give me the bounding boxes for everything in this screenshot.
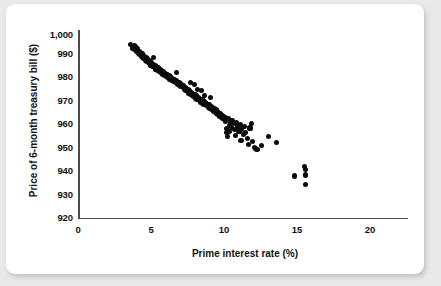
y-tick-label: 990 xyxy=(39,48,73,59)
data-point xyxy=(242,124,247,129)
data-point xyxy=(226,116,231,121)
data-point xyxy=(249,121,254,126)
data-point xyxy=(187,88,192,93)
data-point xyxy=(153,66,158,71)
x-tick-label: 0 xyxy=(65,224,91,235)
data-point xyxy=(143,57,148,62)
data-point xyxy=(199,97,204,102)
data-point xyxy=(144,55,149,60)
data-point xyxy=(220,113,225,118)
data-point xyxy=(215,109,220,114)
data-point xyxy=(183,85,188,90)
data-point xyxy=(204,103,209,108)
data-point xyxy=(179,82,184,87)
data-point xyxy=(208,95,213,100)
data-point xyxy=(164,72,169,77)
data-point xyxy=(229,125,234,130)
x-tick-label: 10 xyxy=(211,224,237,235)
data-point xyxy=(178,81,183,86)
data-point xyxy=(192,92,197,97)
data-point xyxy=(215,112,220,117)
data-point xyxy=(259,143,264,148)
data-point xyxy=(218,111,223,116)
data-point xyxy=(246,142,251,147)
data-point xyxy=(134,49,139,54)
y-axis-title: Price of 6-month treasury bill ($) xyxy=(28,26,39,216)
data-point xyxy=(177,83,182,88)
data-point xyxy=(197,98,202,103)
data-point xyxy=(222,117,227,122)
data-point xyxy=(167,73,172,78)
data-point xyxy=(137,49,142,54)
x-tick-label: 5 xyxy=(138,224,164,235)
data-point xyxy=(174,78,179,83)
data-point xyxy=(194,93,199,98)
data-point xyxy=(152,65,157,70)
data-point xyxy=(165,75,170,80)
data-point xyxy=(157,69,162,74)
data-point xyxy=(303,172,308,177)
data-point xyxy=(197,96,202,101)
data-point xyxy=(190,91,195,96)
data-point xyxy=(167,77,172,82)
data-point xyxy=(154,64,159,69)
data-point xyxy=(198,99,203,104)
data-point xyxy=(162,73,167,78)
scatter-plot-figure: 1,000 990 980 970 960 950 940 930 920 0 … xyxy=(0,0,441,286)
data-point xyxy=(176,80,181,85)
data-point xyxy=(170,76,175,81)
data-point xyxy=(210,105,215,110)
data-point xyxy=(172,77,177,82)
data-point xyxy=(132,43,137,48)
data-point xyxy=(153,63,158,68)
data-point xyxy=(238,122,243,127)
data-point xyxy=(228,120,233,125)
data-point xyxy=(302,164,307,169)
data-point xyxy=(201,102,206,107)
data-point xyxy=(292,173,297,178)
data-point xyxy=(206,104,211,109)
data-point xyxy=(250,139,255,144)
data-point xyxy=(159,68,164,73)
data-point xyxy=(186,91,191,96)
data-point xyxy=(141,53,146,58)
data-point xyxy=(233,133,238,138)
data-point xyxy=(191,94,196,99)
data-point xyxy=(146,58,151,63)
data-point xyxy=(185,87,190,92)
data-point xyxy=(209,107,214,112)
data-point xyxy=(155,68,160,73)
data-point xyxy=(241,132,246,137)
data-point xyxy=(216,110,221,115)
data-point xyxy=(133,44,138,49)
data-point xyxy=(190,93,195,98)
data-point xyxy=(134,48,139,53)
data-point xyxy=(171,79,176,84)
data-point xyxy=(151,55,156,60)
y-tick-label: 960 xyxy=(39,118,73,129)
data-point xyxy=(217,113,222,118)
data-point xyxy=(208,104,213,109)
data-point xyxy=(232,127,237,132)
data-point xyxy=(137,52,142,57)
data-point xyxy=(146,60,151,65)
data-point xyxy=(245,136,250,141)
data-point xyxy=(132,47,137,52)
x-tick-label: 20 xyxy=(357,224,383,235)
y-tick-label: 970 xyxy=(39,95,73,106)
data-point xyxy=(162,71,167,76)
y-tick-label: 950 xyxy=(39,142,73,153)
data-point xyxy=(213,107,218,112)
data-point xyxy=(196,95,201,100)
data-point xyxy=(213,110,218,115)
data-point xyxy=(194,97,199,102)
data-point xyxy=(234,120,239,125)
data-point xyxy=(192,82,197,87)
data-point xyxy=(243,130,248,135)
data-point xyxy=(160,71,165,76)
data-point xyxy=(200,101,205,106)
data-point xyxy=(212,106,217,111)
data-point xyxy=(136,51,141,56)
data-point xyxy=(150,64,155,69)
data-point xyxy=(303,182,308,187)
